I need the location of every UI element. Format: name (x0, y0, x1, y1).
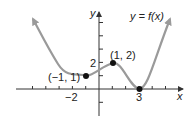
x-axis-label: x (176, 90, 183, 102)
y-ticks (99, 23, 103, 103)
function-graph: (−1, 1) (1, 2) 2 −2 3 x y y = f(x) (0, 0, 195, 120)
function-label: y = f(x) (129, 10, 164, 22)
x-tick-label-3: 3 (136, 91, 142, 103)
point-neg1-1 (83, 73, 89, 79)
function-curve (33, 19, 86, 76)
point-label-neg1-1: (−1, 1) (48, 71, 80, 83)
x-tick-label-neg2: −2 (65, 91, 78, 103)
y-axis-label: y (89, 7, 97, 19)
y-tick-label-2: 2 (90, 57, 96, 69)
point-label-1-2: (1, 2) (110, 49, 136, 61)
